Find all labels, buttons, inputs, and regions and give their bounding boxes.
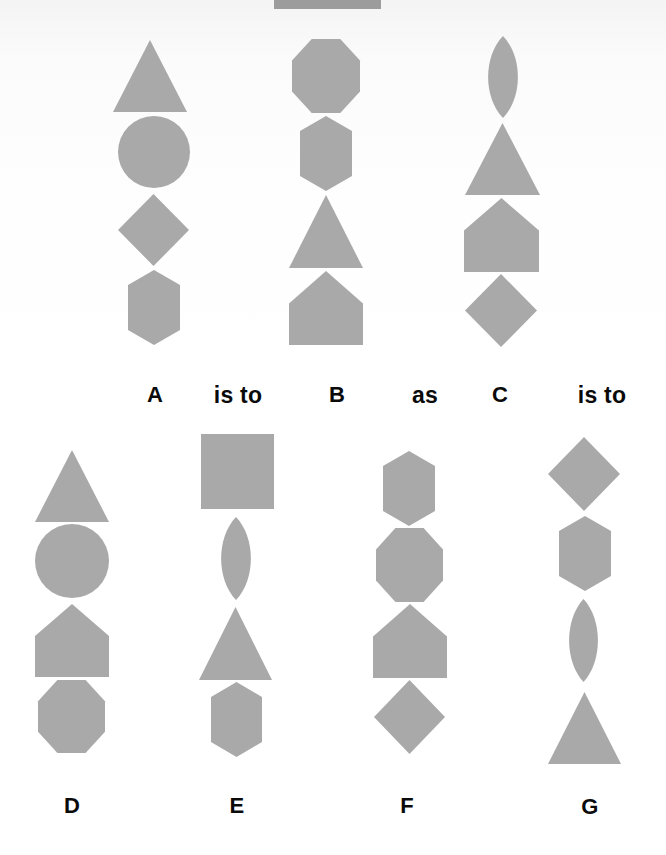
- label-c: C: [492, 384, 508, 406]
- hexagon-shape: [211, 682, 262, 757]
- triangle-shape: [465, 123, 540, 195]
- diamond-shape: [548, 437, 620, 511]
- option-label-g[interactable]: G: [581, 796, 598, 818]
- lens-shape: [221, 517, 251, 600]
- triangle-shape: [113, 40, 187, 112]
- option-label-e[interactable]: E: [230, 795, 245, 817]
- triangle-shape: [199, 607, 272, 680]
- lens-shape: [569, 599, 598, 682]
- octagon-shape: [292, 39, 360, 113]
- diamond-shape: [118, 194, 189, 266]
- diamond-shape: [465, 274, 537, 347]
- hexagon-shape: [383, 451, 435, 526]
- square-shape: [201, 434, 274, 509]
- hexagon-shape: [559, 516, 611, 591]
- triangle-shape: [289, 195, 363, 268]
- circle-shape: [118, 116, 190, 188]
- circle-shape: [35, 524, 109, 598]
- option-label-d[interactable]: D: [64, 795, 80, 817]
- hexagon-shape: [128, 270, 180, 345]
- lens-shape: [488, 36, 518, 118]
- pentagon-shape: [373, 604, 447, 678]
- puzzle-canvas: [0, 0, 666, 855]
- figure-g-shape-stack[interactable]: [548, 437, 621, 764]
- label-is-to-first: is to: [214, 384, 262, 406]
- octagon-shape: [38, 680, 105, 753]
- figure-b-shape-stack: [289, 39, 363, 345]
- top-cropped-bar: [274, 0, 381, 9]
- figure-d-shape-stack[interactable]: [35, 450, 109, 753]
- figure-f-shape-stack[interactable]: [373, 451, 447, 754]
- label-is-to-second: is to: [578, 384, 626, 406]
- figure-e-shape-stack[interactable]: [199, 434, 274, 757]
- pentagon-shape: [464, 198, 539, 272]
- figure-c-shape-stack: [464, 36, 540, 347]
- triangle-shape: [548, 692, 621, 764]
- hexagon-shape: [300, 116, 352, 191]
- pentagon-shape: [35, 604, 109, 677]
- figure-a-shape-stack: [113, 40, 190, 345]
- pentagon-shape: [289, 271, 363, 345]
- option-label-f[interactable]: F: [400, 795, 414, 817]
- triangle-shape: [35, 450, 109, 522]
- label-b: B: [329, 384, 345, 406]
- label-a: A: [147, 384, 163, 406]
- diamond-shape: [374, 680, 445, 754]
- octagon-shape: [376, 528, 443, 602]
- label-as: as: [412, 384, 438, 406]
